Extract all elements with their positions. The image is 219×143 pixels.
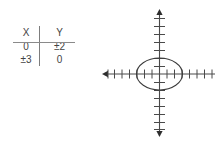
table-header-rule <box>13 42 75 43</box>
column-header-y: Y <box>40 26 75 40</box>
graph-svg <box>100 8 219 138</box>
table-header-row: X Y <box>13 26 75 40</box>
cell-x-value: ±3 <box>13 53 40 66</box>
cell-y-value: 0 <box>40 53 75 66</box>
table-row: ±3 0 <box>13 53 75 66</box>
y-axis-bottom-arrow-icon <box>156 131 162 137</box>
table-body: X Y 0 ±2 ±3 0 <box>13 26 75 66</box>
coordinate-plane-with-ellipse <box>100 8 219 138</box>
y-axis-top-arrow-icon <box>156 9 162 15</box>
xy-intercept-table: X Y 0 ±2 ±3 0 <box>13 26 75 66</box>
column-header-x: X <box>13 26 40 40</box>
x-axis-left-arrow-icon <box>102 71 108 77</box>
